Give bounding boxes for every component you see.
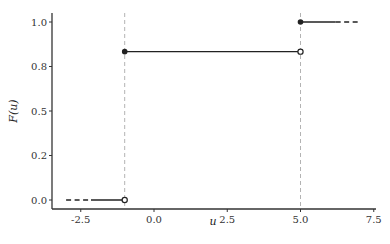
cdf-step-chart: -2.50.02.55.07.5 0.00.20.50.81.0 u F(u) (0, 0, 390, 244)
open-point (298, 49, 303, 54)
open-point (122, 197, 127, 202)
y-axis-label: F(u) (7, 99, 20, 123)
y-tick-label: 0.5 (31, 106, 47, 117)
x-axis-label: u (209, 215, 216, 228)
x-tick-label: 7.5 (366, 214, 382, 225)
x-axis-ticks: -2.50.02.55.07.5 (71, 209, 382, 225)
y-axis-ticks: 0.00.20.50.81.0 (31, 17, 52, 206)
y-tick-label: 1.0 (31, 17, 47, 28)
y-tick-label: 0.8 (31, 61, 47, 72)
x-tick-label: 2.5 (219, 214, 235, 225)
x-tick-label: -2.5 (71, 214, 90, 225)
closed-point (298, 19, 304, 25)
closed-point (122, 49, 128, 55)
x-tick-label: 5.0 (293, 214, 309, 225)
x-tick-label: 0.0 (146, 214, 162, 225)
y-tick-label: 0.2 (31, 150, 47, 161)
step-segments (66, 22, 359, 200)
step-endpoints (122, 19, 303, 202)
axes (52, 13, 376, 209)
vertical-reference-lines (125, 13, 301, 209)
y-tick-label: 0.0 (31, 195, 47, 206)
